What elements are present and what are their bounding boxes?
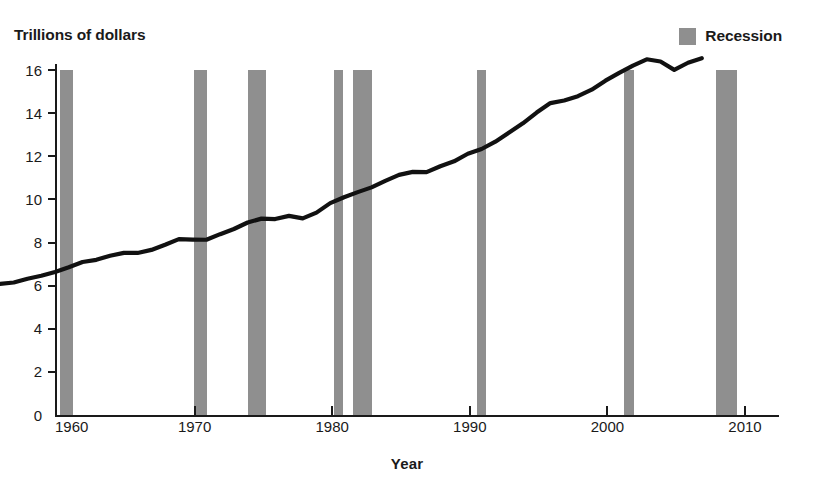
recession-bands-group [57, 70, 745, 415]
x-axis-tick-label: 1980 [316, 419, 349, 434]
x-axis-tick-label: 1960 [55, 419, 88, 434]
legend: Recession [679, 27, 782, 45]
recession-band [334, 70, 343, 415]
recession-swatch-icon [679, 28, 696, 45]
x-axis-title: Year [0, 455, 814, 472]
y-axis-tick-label: 2 [34, 364, 42, 379]
x-axis-tick-label: 2000 [591, 419, 624, 434]
y-axis-tick-label: 4 [34, 321, 42, 336]
y-axis-title: Trillions of dollars [14, 26, 146, 44]
x-axis-tick-label: 1990 [453, 419, 486, 434]
x-axis-tick [469, 406, 471, 415]
y-axis-tick-label: 12 [25, 149, 42, 164]
y-axis-tick-label: 10 [25, 192, 42, 207]
recession-band [624, 70, 634, 415]
x-axis-tick [194, 406, 196, 415]
y-axis-tick-label: 14 [25, 106, 42, 121]
y-axis-tick [48, 285, 56, 287]
y-axis-tick [48, 371, 56, 373]
y-axis-tick-label: 0 [34, 408, 42, 423]
x-axis-line [55, 415, 779, 417]
y-axis-tick [48, 112, 56, 114]
recession-band [194, 70, 207, 415]
x-axis-tick-label: 2010 [728, 419, 761, 434]
recession-band [60, 70, 72, 415]
y-axis-tick-label: 8 [34, 235, 42, 250]
recession-band [477, 70, 486, 415]
x-axis-tick [744, 406, 746, 415]
y-axis-tick [48, 198, 56, 200]
y-axis-tick [48, 328, 56, 330]
y-axis-tick [48, 69, 56, 71]
recession-band [716, 70, 737, 415]
recession-band [248, 70, 266, 415]
y-axis-tick-label: 16 [25, 63, 42, 78]
recession-band [353, 70, 372, 415]
plot-area [57, 70, 745, 415]
y-axis-tick [48, 155, 56, 157]
x-axis-tick [331, 406, 333, 415]
gdp-recession-chart: Trillions of dollars Recession 024681012… [0, 0, 814, 493]
x-axis-tick-label: 1970 [178, 419, 211, 434]
y-axis-tick-label: 6 [34, 278, 42, 293]
x-axis-tick [606, 406, 608, 415]
legend-item-label-recession: Recession [705, 27, 782, 45]
y-axis-tick [48, 242, 56, 244]
